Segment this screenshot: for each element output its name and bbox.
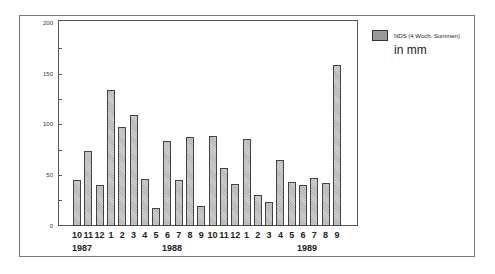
y-tick-mark xyxy=(58,74,62,75)
y-tick-mark xyxy=(58,175,62,176)
bar xyxy=(163,141,171,226)
x-tick-label: 9 xyxy=(330,230,344,240)
bar xyxy=(333,65,341,226)
bar xyxy=(130,115,138,226)
bar xyxy=(141,179,149,226)
bar xyxy=(84,151,92,226)
year-label-1988: 1988 xyxy=(162,243,182,253)
bar xyxy=(96,185,104,226)
legend-label: NDS (4 Woch. Summen) xyxy=(394,33,460,39)
legend-swatch xyxy=(372,30,388,41)
y-tick-label: 50 xyxy=(33,172,53,178)
unit-label: in mm xyxy=(394,43,427,57)
bar xyxy=(73,180,81,226)
bar xyxy=(220,168,228,226)
bar xyxy=(118,127,126,226)
bar xyxy=(175,180,183,226)
y-tick-mark xyxy=(58,200,62,201)
bar xyxy=(107,90,115,226)
year-label-1987: 1987 xyxy=(72,243,92,253)
y-tick-label: 200 xyxy=(33,20,53,26)
bar xyxy=(322,183,330,226)
bar xyxy=(310,178,318,226)
bar xyxy=(197,206,205,226)
bar xyxy=(288,182,296,226)
y-tick-mark xyxy=(58,150,62,151)
y-tick-label: 100 xyxy=(33,121,53,127)
y-tick-label: 150 xyxy=(33,71,53,77)
y-tick-label: 0 xyxy=(33,223,53,229)
bar xyxy=(231,184,239,226)
bar xyxy=(152,208,160,226)
y-tick-mark xyxy=(58,124,62,125)
bar xyxy=(299,185,307,226)
bar xyxy=(265,202,273,226)
y-tick-mark xyxy=(58,48,62,49)
bar xyxy=(243,139,251,226)
bar xyxy=(186,137,194,226)
bar xyxy=(209,136,217,226)
bar xyxy=(276,160,284,226)
year-label-1989: 1989 xyxy=(297,243,317,253)
bar xyxy=(254,195,262,226)
y-tick-mark xyxy=(58,99,62,100)
